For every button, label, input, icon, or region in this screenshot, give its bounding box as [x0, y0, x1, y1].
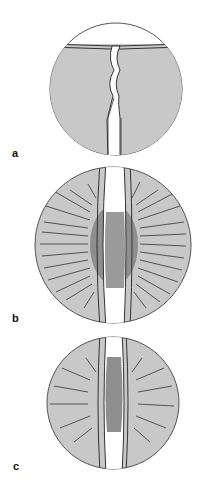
panel-a	[40, 23, 199, 164]
panel-b	[35, 160, 191, 330]
diagram-canvas	[0, 0, 199, 492]
panel-label-c: c	[13, 460, 19, 472]
panel-label-a: a	[12, 147, 18, 159]
panel-c	[47, 330, 179, 475]
panel-label-b: b	[12, 312, 19, 324]
